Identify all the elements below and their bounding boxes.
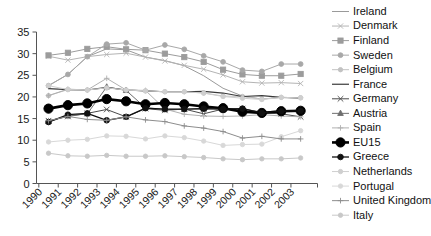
legend-label: United Kingdom (353, 194, 431, 206)
legend-item-netherlands[interactable]: Netherlands (332, 165, 413, 177)
legend-label: Sweden (353, 49, 393, 61)
legend-label: Italy (353, 209, 374, 221)
data-point-marker (85, 137, 89, 141)
data-point-marker (240, 135, 246, 141)
data-point-marker (279, 62, 284, 67)
y-tick-label: 30 (17, 48, 29, 60)
legend-item-greece[interactable]: Greece (332, 150, 389, 162)
data-point-marker (260, 142, 264, 146)
data-point-marker (162, 43, 167, 48)
legend-label: Greece (353, 150, 389, 162)
data-point-marker (279, 157, 283, 161)
data-point-marker (163, 134, 167, 138)
data-point-marker (201, 59, 206, 64)
data-point-marker (143, 48, 148, 53)
legend-label: Belgium (353, 63, 393, 75)
data-point-marker (260, 97, 264, 101)
data-point-marker (338, 53, 343, 58)
data-point-marker (123, 47, 128, 52)
data-point-marker (338, 68, 342, 72)
data-point-marker (201, 106, 207, 112)
data-point-marker (298, 156, 302, 160)
x-tick-label: 2000 (213, 185, 238, 210)
chart-figure: 05101520253035 1990199119921993199419951… (0, 0, 431, 236)
data-point-marker (124, 88, 128, 92)
x-tick-label: 2001 (233, 185, 258, 210)
data-point-marker (182, 135, 186, 139)
data-point-marker (220, 114, 226, 120)
data-point-marker (66, 72, 71, 77)
data-point-marker (105, 153, 109, 157)
data-point-marker (65, 50, 70, 55)
series-united-kingdom (46, 114, 304, 142)
legend-label: France (353, 78, 387, 90)
data-point-marker (221, 59, 226, 64)
legend-item-germany[interactable]: Germany (332, 92, 399, 104)
legend-item-united-kingdom[interactable]: United Kingdom (332, 194, 431, 206)
data-point-marker (46, 140, 50, 144)
legend-item-portugal[interactable]: Portugal (332, 180, 394, 192)
y-tick-labels: 05101520253035 (17, 26, 29, 190)
x-tick-label: 1998 (174, 185, 199, 210)
legend-item-sweden[interactable]: Sweden (332, 49, 393, 61)
x-tick-label: 1992 (58, 185, 83, 210)
data-point-marker (221, 94, 225, 98)
legend-item-austria[interactable]: Austria (332, 107, 388, 119)
data-point-marker (85, 88, 89, 92)
data-point-marker (162, 106, 168, 112)
x-tick-label: 1991 (39, 185, 64, 210)
data-point-marker (143, 105, 149, 111)
legend-label: Netherlands (353, 165, 413, 177)
x-tick-label: 1996 (136, 185, 161, 210)
data-point-marker (83, 99, 92, 108)
data-point-marker (298, 71, 303, 76)
legend: IrelandDenmarkFinlandSwedenBelgiumFrance… (332, 5, 431, 221)
legend-item-france[interactable]: France (332, 78, 387, 90)
legend-item-ireland[interactable]: Ireland (332, 5, 387, 17)
data-point-marker (66, 87, 70, 91)
data-point-marker (85, 117, 91, 123)
x-tick-label: 1995 (116, 185, 141, 210)
x-tick-label: 1999 (194, 185, 219, 210)
data-point-marker (162, 51, 167, 56)
legend-item-italy[interactable]: Italy (332, 209, 374, 221)
data-point-marker (259, 69, 264, 74)
legend-item-finland[interactable]: Finland (332, 34, 389, 46)
data-point-marker (143, 117, 149, 123)
legend-item-spain[interactable]: Spain (332, 121, 381, 133)
data-point-marker (338, 110, 344, 115)
legend-label: Spain (353, 121, 381, 133)
legend-label: Finland (353, 34, 389, 46)
series-portugal (46, 128, 303, 147)
y-tick-label: 0 (23, 178, 29, 190)
legend-label: Denmark (353, 19, 398, 31)
data-point-marker (240, 106, 246, 112)
series-group (44, 40, 305, 161)
data-point-marker (46, 83, 50, 87)
data-point-marker (338, 125, 344, 131)
legend-label: Austria (353, 107, 388, 119)
legend-label: Portugal (353, 180, 394, 192)
data-point-marker (279, 73, 284, 78)
legend-item-denmark[interactable]: Denmark (332, 19, 398, 31)
data-point-marker (102, 94, 111, 103)
series-finland (46, 44, 303, 78)
data-point-marker (124, 154, 128, 158)
data-point-marker (338, 154, 344, 160)
data-point-marker (240, 96, 244, 100)
data-point-marker (221, 143, 225, 147)
x-tick-label: 1993 (77, 185, 102, 210)
data-point-marker (46, 151, 50, 155)
data-point-marker (85, 54, 90, 59)
data-point-marker (259, 110, 265, 116)
x-tick-labels: 1990199119921993199419951996199719981999… (19, 185, 296, 210)
data-point-marker (240, 68, 245, 73)
data-point-marker (338, 184, 342, 188)
legend-item-eu15[interactable]: EU15 (332, 136, 381, 148)
data-point-marker (336, 138, 345, 147)
data-point-marker (104, 76, 110, 82)
legend-item-belgium[interactable]: Belgium (332, 63, 393, 75)
series-denmark (46, 51, 303, 87)
data-point-marker (85, 154, 89, 158)
data-point-marker (298, 136, 304, 142)
